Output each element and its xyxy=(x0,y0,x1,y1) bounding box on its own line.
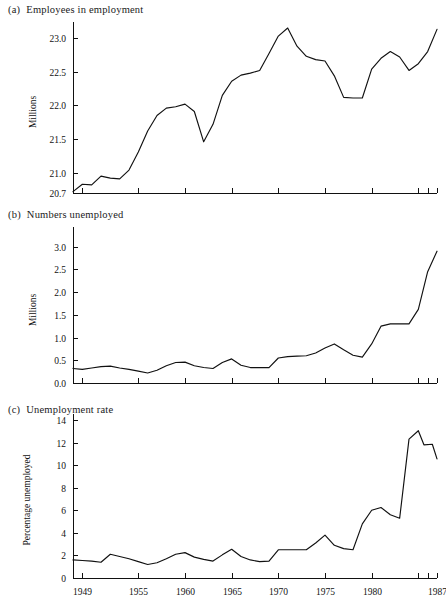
x-tick-label: 1975 xyxy=(316,587,335,597)
y-axis-title: Millions xyxy=(28,96,38,129)
y-tick-label: 2 xyxy=(61,551,66,561)
panel-employees-in-employment: (a)Employees in employment 20.721.021.52… xyxy=(0,0,446,205)
y-tick-label: 1.5 xyxy=(54,311,66,321)
x-tick-label: 1949 xyxy=(73,587,92,597)
x-tick-label: 1955 xyxy=(129,587,148,597)
y-tick-label: 22.0 xyxy=(49,101,66,111)
y-tick-label: 3.0 xyxy=(54,243,66,253)
x-tick-label: 1987 xyxy=(428,587,446,597)
y-tick-label: 2.0 xyxy=(54,288,66,298)
y-tick-label: 0.5 xyxy=(54,356,66,366)
y-tick-label: 6 xyxy=(61,506,66,516)
y-tick-label: 0 xyxy=(61,574,66,584)
y-tick-label: 4 xyxy=(61,529,66,539)
x-tick-label: 1970 xyxy=(269,587,288,597)
panel-numbers-unemployed: (b)Numbers unemployed 0.00.51.01.52.02.5… xyxy=(0,205,446,400)
y-tick-label: 23.0 xyxy=(49,34,66,44)
y-tick-label: 14 xyxy=(57,416,67,426)
data-series-line xyxy=(73,251,437,373)
y-axis-title: Percentage unemployed xyxy=(22,454,32,545)
y-tick-label: 12 xyxy=(57,439,67,449)
y-tick-label: 22.5 xyxy=(49,68,66,78)
data-series-line xyxy=(73,431,437,565)
three-panel-unemployment-figure: (a)Employees in employment 20.721.021.52… xyxy=(0,0,446,615)
y-tick-label: 8 xyxy=(61,484,66,494)
data-series-line xyxy=(73,28,437,192)
x-tick-label: 1960 xyxy=(176,587,195,597)
y-tick-label: 21.5 xyxy=(49,135,66,145)
y-tick-label: 2.5 xyxy=(54,265,66,275)
x-tick-label: 1980 xyxy=(363,587,382,597)
x-tick-label: 1965 xyxy=(223,587,242,597)
y-tick-label: 1.0 xyxy=(54,334,66,344)
panel-a-plot: 20.721.021.522.022.523.0Millions xyxy=(0,0,446,205)
panel-b-plot: 0.00.51.01.52.02.53.0Millions xyxy=(0,205,446,400)
panel-c-plot: 02468101214Percentage unemployed19491955… xyxy=(0,400,446,615)
y-tick-label: 0.0 xyxy=(54,379,66,389)
y-tick-label: 10 xyxy=(57,461,67,471)
y-axis-title: Millions xyxy=(28,294,38,327)
y-tick-label: 20.7 xyxy=(49,189,66,199)
panel-unemployment-rate: (c)Unemployment rate 02468101214Percenta… xyxy=(0,400,446,615)
y-tick-label: 21.0 xyxy=(49,169,66,179)
